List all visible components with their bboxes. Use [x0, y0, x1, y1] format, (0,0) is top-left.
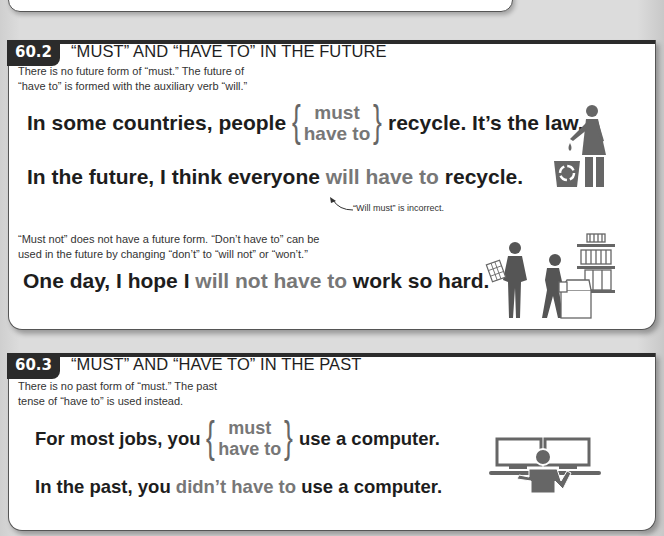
- choice-brace: { must have to }: [289, 102, 385, 144]
- section-number: 60.2: [7, 40, 60, 66]
- section-header: 60.2 “MUST” AND “HAVE TO” IN THE FUTURE: [9, 40, 655, 64]
- sentence-part: recycle.: [445, 165, 523, 188]
- description-line: tense of “have to” is used instead.: [18, 394, 217, 409]
- sentence-part: In the future, I think everyone: [27, 165, 320, 188]
- sentence-part: In some countries, people: [27, 111, 286, 135]
- sentence-part: For most jobs, you: [35, 428, 200, 450]
- section-60-2: 60.2 “MUST” AND “HAVE TO” IN THE FUTURE …: [8, 40, 656, 330]
- arrow-icon: [327, 196, 355, 214]
- description-line: There is no future form of “must.” The f…: [18, 64, 247, 79]
- section-header: 60.3 “MUST” AND “HAVE TO” IN THE PAST: [9, 353, 655, 377]
- section-60-3: 60.3 “MUST” AND “HAVE TO” IN THE PAST Th…: [8, 353, 656, 531]
- person-recycling-icon: [554, 105, 614, 190]
- description-line: There is no past form of “must.” The pas…: [18, 379, 217, 394]
- choice-brace: { must have to }: [203, 418, 295, 460]
- section-description-2: “Must not” does not have a future form. …: [18, 232, 319, 262]
- right-brace-icon: }: [373, 99, 382, 143]
- previous-section-box: [8, 0, 513, 12]
- sentence-part: One day, I hope I: [23, 269, 189, 292]
- right-brace-icon: }: [284, 415, 293, 459]
- left-brace-icon: {: [206, 415, 215, 459]
- description-line: “Must not” does not have a future form. …: [18, 232, 319, 247]
- description-line: “have to” is formed with the auxiliary v…: [18, 79, 247, 94]
- textbook-page: 60.2 “MUST” AND “HAVE TO” IN THE FUTURE …: [0, 0, 664, 536]
- section-description: There is no past form of “must.” The pas…: [18, 379, 217, 409]
- example-sentence: One day, I hope I will not have to work …: [23, 269, 489, 293]
- option-must: must: [228, 418, 271, 439]
- person-computer-icon: [489, 437, 601, 493]
- highlighted-verb: will have to: [326, 165, 439, 188]
- example-sentence: In the future, I think everyone will hav…: [27, 165, 523, 189]
- example-sentence: For most jobs, you { must have to } use …: [35, 418, 440, 460]
- option-have-to: have to: [218, 439, 281, 460]
- workers-warehouse-icon: [475, 230, 615, 322]
- left-brace-icon: {: [292, 99, 301, 143]
- description-line: used in the future by changing “don’t” t…: [18, 247, 319, 262]
- section-title: “MUST” AND “HAVE TO” IN THE PAST: [71, 355, 361, 374]
- section-description: There is no future form of “must.” The f…: [18, 64, 247, 94]
- option-must: must: [314, 102, 359, 123]
- sentence-part: use a computer.: [301, 476, 442, 497]
- section-number: 60.3: [7, 353, 60, 379]
- highlighted-verb: will not have to: [195, 269, 347, 292]
- highlighted-verb: didn’t have to: [176, 476, 296, 497]
- sentence-part: use a computer.: [299, 428, 440, 450]
- annotation-note: “Will must” is incorrect.: [353, 203, 444, 213]
- example-sentence: In some countries, people { must have to…: [27, 102, 584, 144]
- example-sentence: In the past, you didn’t have to use a co…: [35, 476, 442, 498]
- section-title: “MUST” AND “HAVE TO” IN THE FUTURE: [71, 42, 387, 61]
- sentence-part: work so hard.: [353, 269, 490, 292]
- option-have-to: have to: [304, 123, 371, 144]
- sentence-part: In the past, you: [35, 476, 171, 497]
